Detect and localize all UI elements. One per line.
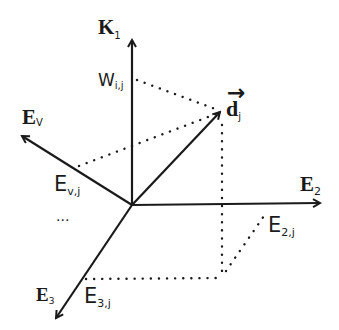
- projection-ev: [79, 114, 216, 166]
- vector-dj: [132, 112, 220, 205]
- label-k1: K1: [98, 15, 121, 41]
- label-e3j: E3,j: [84, 284, 111, 310]
- ellipsis: ...: [56, 208, 69, 224]
- label-e2j: E2,j: [268, 213, 295, 239]
- projection-w: [137, 80, 218, 110]
- label-ev: EV: [22, 105, 43, 129]
- label-e2: E2: [300, 172, 321, 198]
- axis-e2: [132, 203, 320, 205]
- projection-e2: [226, 213, 266, 271]
- vector-space-diagram: K1 EV E2 E3 → dj Wi,j Ev,j E2,j E3,j ...: [0, 0, 339, 330]
- projection-e3: [86, 278, 222, 279]
- label-e3: E3: [36, 284, 54, 306]
- label-wij: Wi,j: [98, 70, 124, 91]
- label-evj: Ev,j: [54, 172, 80, 198]
